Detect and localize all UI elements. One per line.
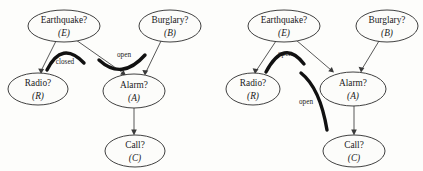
node-symbol: (C) (129, 153, 141, 164)
node-right-earthquake[interactable]: Earthquake? (E) (248, 10, 320, 42)
curve-label-left-open: open (117, 51, 131, 59)
diagram-right: open open Earthquake? (E) Burglary? (B) … (226, 10, 418, 167)
node-symbol: (A) (128, 93, 140, 104)
node-symbol: (B) (164, 28, 176, 39)
curve-label-left-closed: closed (56, 58, 75, 66)
node-symbol: (E) (58, 28, 70, 39)
bayes-network-figure: closed open Earthquake? (E) Burglary? (B… (0, 0, 423, 171)
node-title: Radio? (25, 78, 51, 88)
node-title: Call? (344, 140, 364, 150)
node-title: Call? (125, 140, 145, 150)
node-symbol: (A) (347, 91, 359, 102)
curve-label-right-open-bottom: open (299, 98, 313, 106)
arrowhead-right-B-A (359, 67, 365, 73)
node-title: Burglary? (151, 15, 188, 25)
node-right-radio[interactable]: Radio? (R) (226, 73, 280, 105)
node-left-burglary[interactable]: Burglary? (B) (139, 10, 201, 42)
curve-label-right-open-top: open (278, 50, 292, 58)
node-symbol: (R) (32, 91, 44, 102)
node-left-call[interactable]: Call? (C) (105, 135, 165, 167)
node-title: Radio? (240, 78, 266, 88)
figure-canvas: closed open Earthquake? (E) Burglary? (B… (0, 0, 423, 171)
node-symbol: (C) (348, 153, 360, 164)
diagram-left: closed open Earthquake? (E) Burglary? (B… (8, 10, 201, 167)
node-symbol: (B) (381, 28, 393, 39)
node-left-radio[interactable]: Radio? (R) (8, 73, 68, 105)
node-symbol: (E) (278, 28, 290, 39)
edge-right-E-to-R (256, 41, 276, 71)
node-title: Alarm? (339, 78, 367, 88)
node-title: Earthquake? (41, 15, 87, 25)
edge-left-B-to-A (146, 41, 161, 72)
node-right-call[interactable]: Call? (C) (323, 135, 385, 167)
node-right-burglary[interactable]: Burglary? (B) (356, 10, 418, 42)
node-symbol: (R) (247, 91, 259, 102)
node-title: Earthquake? (261, 15, 307, 25)
node-left-alarm[interactable]: Alarm? (A) (103, 74, 165, 108)
node-right-alarm[interactable]: Alarm? (A) (320, 72, 386, 106)
node-title: Burglary? (368, 15, 405, 25)
edge-right-E-to-A (296, 40, 331, 70)
edge-right-B-to-A (362, 41, 379, 69)
node-title: Alarm? (120, 80, 148, 90)
node-left-earthquake[interactable]: Earthquake? (E) (28, 10, 100, 42)
